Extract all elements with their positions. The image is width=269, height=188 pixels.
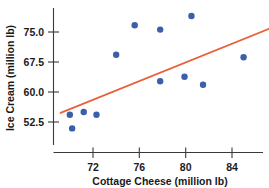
y-tick-label: 75.0 <box>24 26 45 38</box>
x-tick-label: 76 <box>133 161 145 173</box>
data-point <box>200 82 206 88</box>
data-point <box>181 74 187 80</box>
data-point <box>132 22 138 28</box>
y-tick-label: 52.5 <box>24 116 45 128</box>
data-point <box>67 112 73 118</box>
chart-canvas: 75.0 67.5 60.0 52.5 72 76 80 84 Cottage … <box>0 0 269 188</box>
data-point <box>93 112 99 118</box>
data-point <box>81 109 87 115</box>
data-point <box>69 125 75 131</box>
x-tick-label: 72 <box>87 161 99 173</box>
x-axis-title: Cottage Cheese (million lb) <box>92 175 227 187</box>
y-tick-label: 60.0 <box>24 86 45 98</box>
x-tick-label: 80 <box>180 161 192 173</box>
y-axis-title: Ice Cream (million lb) <box>4 25 16 131</box>
x-tick-label: 84 <box>226 161 238 173</box>
data-point <box>113 52 119 58</box>
data-point <box>157 26 163 32</box>
scatter-chart: 75.0 67.5 60.0 52.5 72 76 80 84 Cottage … <box>0 0 269 188</box>
y-tick-label: 67.5 <box>24 56 45 68</box>
data-point <box>240 54 246 60</box>
data-point <box>188 13 194 19</box>
data-point <box>157 78 163 84</box>
